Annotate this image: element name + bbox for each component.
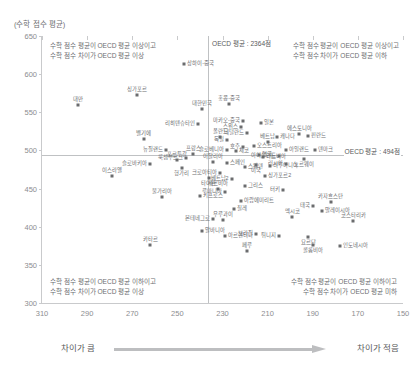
data-point[interactable] <box>239 125 242 128</box>
data-point[interactable] <box>142 137 145 140</box>
scatter-chart: (수학 점수 평균) OECD 평균 : 2364점 OECD 평균 : 494… <box>0 0 420 380</box>
data-point-label: 벨기에 <box>136 131 151 136</box>
data-point[interactable] <box>149 244 152 247</box>
data-point-label: 베트남 <box>260 134 275 139</box>
data-point[interactable] <box>241 120 244 123</box>
data-point[interactable] <box>246 131 249 134</box>
data-point-label: 알바니아 <box>205 229 225 234</box>
quadrant-note-line: 수학 점수 차이가 OECD 평균 이하 <box>293 51 399 61</box>
data-point[interactable] <box>226 138 229 141</box>
data-point[interactable] <box>284 148 287 151</box>
data-point[interactable] <box>196 122 199 125</box>
data-point[interactable] <box>329 201 332 204</box>
data-point[interactable] <box>176 159 179 162</box>
data-point-label: 핀란드 <box>311 133 326 138</box>
data-point-label: 대만 <box>73 96 83 101</box>
data-point-label: 캐나다 <box>280 134 295 139</box>
data-point[interactable] <box>259 121 262 124</box>
data-point[interactable] <box>282 189 285 192</box>
x-tick-mark <box>177 36 178 40</box>
data-point[interactable] <box>277 234 280 237</box>
data-point[interactable] <box>338 244 341 247</box>
data-point[interactable] <box>291 215 294 218</box>
data-point[interactable] <box>223 191 226 194</box>
data-point[interactable] <box>201 108 204 111</box>
data-point[interactable] <box>226 148 229 151</box>
data-point-label: 코스타리카 <box>341 213 366 218</box>
quadrant-note-bottom-right: 수학 점수 평균이 OECD 평균 이하이고수학 점수 차이가 OECD 평균 … <box>291 277 397 297</box>
data-point[interactable] <box>275 135 278 138</box>
data-point[interactable] <box>253 144 256 147</box>
data-point[interactable] <box>311 205 314 208</box>
quadrant-note-line: 수학 점수 평균이 OECD 평균 이상이고 <box>293 41 399 51</box>
data-point[interactable] <box>239 199 242 202</box>
x-axis-tick-250: 250 <box>171 303 184 318</box>
data-point[interactable] <box>223 234 226 237</box>
x-axis-tick-230: 230 <box>216 303 229 318</box>
data-point[interactable] <box>192 153 195 156</box>
data-point[interactable] <box>298 133 301 136</box>
band-label-small-gap: 차이가 적음 <box>357 341 399 353</box>
data-point[interactable] <box>198 195 201 198</box>
data-point[interactable] <box>212 218 215 221</box>
data-point[interactable] <box>201 230 204 233</box>
data-point[interactable] <box>307 134 310 137</box>
data-point[interactable] <box>135 93 138 96</box>
oecd-mean-horizontal-label: OECD 평균 : 494점 <box>344 146 401 156</box>
data-point[interactable] <box>246 250 249 253</box>
quadrant-note-line: 수학 점수 평균이 OECD 평균 이상이고 <box>50 41 156 51</box>
data-point[interactable] <box>228 102 231 105</box>
data-point-label: 프랑스 <box>186 146 201 151</box>
data-point[interactable] <box>219 171 222 174</box>
data-point-label: 우루과이 <box>213 211 233 216</box>
data-point[interactable] <box>230 178 233 181</box>
data-point-label: 대한민국 <box>192 101 212 106</box>
data-point[interactable] <box>160 195 163 198</box>
x-tick-mark <box>87 36 88 40</box>
data-point-label: 터키 <box>270 187 280 192</box>
oecd-mean-vertical-label: OECD 평균 : 2364점 <box>211 38 272 48</box>
data-point-label: 스웨덴 <box>248 165 263 170</box>
data-point[interactable] <box>221 218 224 221</box>
data-point[interactable] <box>314 149 317 152</box>
data-point-label: 리투아니아 <box>273 164 298 169</box>
quadrant-note-top-right: 수학 점수 평균이 OECD 평균 이상이고수학 점수 차이가 OECD 평균 … <box>293 41 399 61</box>
data-point[interactable] <box>212 160 215 163</box>
data-point[interactable] <box>320 209 323 212</box>
data-point-label: 오스트리아 <box>257 143 282 148</box>
data-point-label: 이스라엘 <box>102 168 122 173</box>
quadrant-note-line: 수학 점수 차이가 OECD 평균 이상 <box>50 287 156 297</box>
quadrant-note-line: 수학 점수 평균이 OECD 평균 이하이고 <box>50 277 156 287</box>
y-tick-mark <box>39 189 42 190</box>
data-point[interactable] <box>77 103 80 106</box>
data-point-label: 튀니지 <box>261 233 276 238</box>
y-tick-mark <box>39 74 42 75</box>
data-point-label: 에스토니아 <box>287 126 312 131</box>
data-point[interactable] <box>232 208 235 211</box>
data-point[interactable] <box>264 175 267 178</box>
data-point[interactable] <box>183 63 186 66</box>
data-point-label: 인도네시아 <box>343 243 368 248</box>
data-point[interactable] <box>110 175 113 178</box>
data-point[interactable] <box>262 156 265 159</box>
x-tick-mark <box>223 36 224 40</box>
data-point[interactable] <box>226 161 229 164</box>
data-point[interactable] <box>244 185 247 188</box>
data-point[interactable] <box>219 135 222 138</box>
data-point[interactable] <box>352 220 355 223</box>
data-point[interactable] <box>268 165 271 168</box>
data-point-label: 불가리아 <box>152 189 172 194</box>
y-tick-mark <box>39 227 42 228</box>
y-tick-mark <box>39 265 42 266</box>
data-point-label: 뉴질랜드 <box>143 148 163 153</box>
x-tick-mark <box>132 36 133 40</box>
x-tick-mark <box>403 36 404 40</box>
data-point-label: 체코 <box>239 148 249 153</box>
data-point-label: 크로아티아 <box>192 170 217 175</box>
data-point-label: 콜롬비아 <box>303 248 323 253</box>
data-point[interactable] <box>255 232 258 235</box>
data-point-label: 포르투갈 <box>167 152 187 157</box>
data-point[interactable] <box>235 150 238 153</box>
data-point[interactable] <box>244 166 247 169</box>
data-point[interactable] <box>149 163 152 166</box>
